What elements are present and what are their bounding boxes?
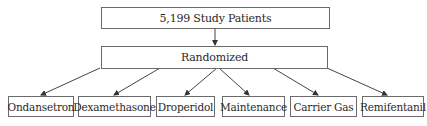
arm-label: Remifentanil: [360, 101, 426, 113]
arrow-to-droperidol: [185, 68, 217, 95]
randomized-node: Randomized: [101, 46, 328, 69]
randomized-node-label: Randomized: [181, 51, 248, 64]
arrow-to-dexamethasone: [114, 68, 160, 95]
root-node-label: 5,199 Study Patients: [160, 12, 272, 25]
arm-remifentanil: Remifentanil: [362, 96, 424, 117]
arrow-to-ondansetron: [41, 68, 100, 95]
arm-dexamethasone: Dexamethasone: [78, 96, 151, 117]
arrow-to-remifentanil: [327, 68, 387, 95]
arm-carrier-gas: Carrier Gas: [290, 96, 357, 117]
arm-droperidol: Droperidol: [156, 96, 215, 117]
arm-maintenance: Maintenance: [222, 96, 285, 117]
arm-label: Dexamethasone: [73, 101, 155, 113]
arm-ondansetron: Ondansetron: [8, 96, 74, 117]
root-node: 5,199 Study Patients: [101, 7, 330, 29]
arm-label: Droperidol: [158, 101, 213, 113]
arrow-to-maintenance: [219, 68, 249, 95]
arm-label: Maintenance: [220, 101, 287, 113]
arm-label: Carrier Gas: [293, 101, 353, 113]
flow-diagram: 5,199 Study Patients Randomized Ondanset…: [0, 0, 427, 126]
arm-label: Ondansetron: [8, 101, 75, 113]
arrow-to-carrier-gas: [273, 68, 318, 95]
